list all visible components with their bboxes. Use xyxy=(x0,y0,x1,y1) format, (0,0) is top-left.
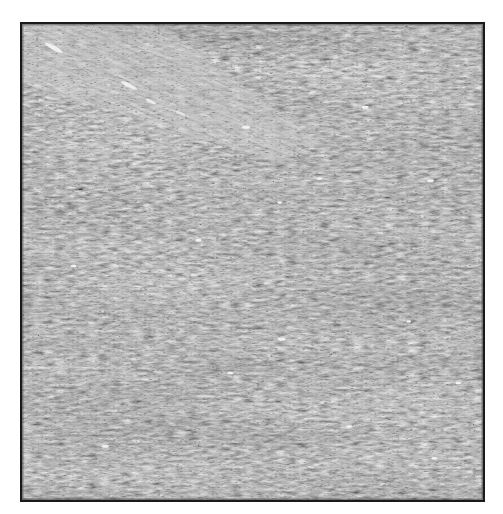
tissue-texture xyxy=(22,24,483,500)
micrograph-image xyxy=(20,22,485,502)
page-canvas xyxy=(0,0,503,514)
nuclei-layer xyxy=(22,24,483,500)
